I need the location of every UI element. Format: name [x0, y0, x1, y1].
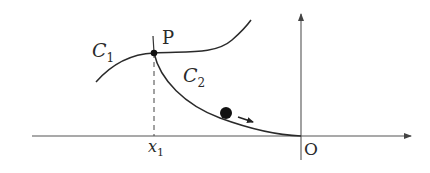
diagram-canvas: C1 P C2 x1 O [0, 0, 430, 173]
label-x1: x1 [148, 137, 164, 159]
curve-c2 [154, 53, 301, 136]
label-c2: C2 [183, 64, 205, 90]
label-p: P [162, 27, 174, 48]
ball [220, 107, 232, 119]
label-c1: C1 [92, 39, 114, 65]
label-origin: O [304, 139, 318, 159]
motion-arrow [238, 117, 253, 122]
point-p-marker [151, 50, 158, 57]
